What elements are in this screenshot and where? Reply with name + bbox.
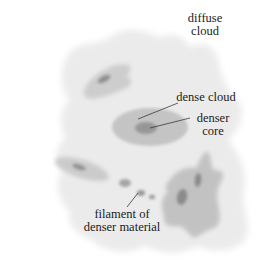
denser-core-label-line-2: core [190, 125, 236, 138]
denser-core-shape [135, 122, 157, 134]
molecular-cloud-diagram: diffuse cloud dense cloud denser core fi… [0, 0, 274, 271]
dense-cloud-label-text: dense cloud [165, 91, 247, 104]
denser-core-label: denser core [190, 112, 236, 138]
filament-blob-3 [149, 195, 155, 199]
diffuse-cloud-label-line-2: cloud [182, 25, 228, 38]
filament-label: filament of denser material [72, 208, 172, 234]
dense-cloud-label: dense cloud [165, 91, 247, 104]
filament-blob-1 [119, 179, 131, 187]
filament-blob-2 [137, 190, 145, 196]
filament-label-line-2: denser material [72, 221, 172, 234]
diffuse-cloud-label: diffuse cloud [182, 12, 228, 38]
